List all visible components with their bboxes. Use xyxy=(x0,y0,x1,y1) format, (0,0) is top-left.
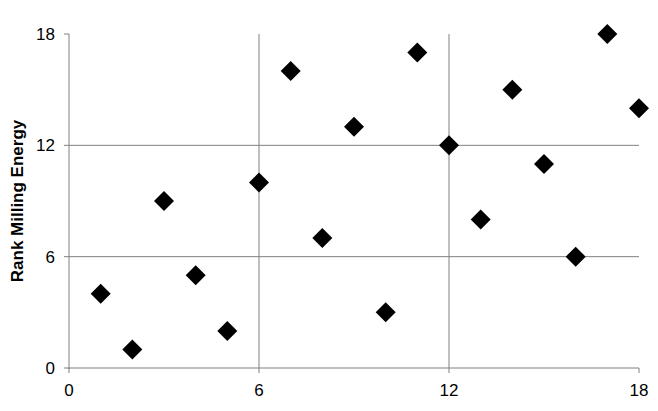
diamond-marker xyxy=(502,80,522,100)
diamond-marker xyxy=(217,321,237,341)
scatter-chart: 061218 061218 Rank Milling Energy xyxy=(0,0,658,411)
diamond-marker xyxy=(376,302,396,322)
data-points xyxy=(91,24,649,359)
diamond-marker xyxy=(344,117,364,137)
diamond-marker xyxy=(154,191,174,211)
y-tick-label: 18 xyxy=(36,25,55,44)
y-tick-label: 12 xyxy=(36,136,55,155)
x-tick-label: 18 xyxy=(630,381,649,400)
diamond-marker xyxy=(534,154,554,174)
diamond-marker xyxy=(439,135,459,155)
diamond-marker xyxy=(122,339,142,359)
y-tick-label: 6 xyxy=(46,248,55,267)
x-tick-label: 0 xyxy=(64,381,73,400)
diamond-marker xyxy=(629,98,649,118)
diamond-marker xyxy=(471,210,491,230)
x-axis-tick-labels: 061218 xyxy=(64,381,648,400)
diamond-marker xyxy=(281,61,301,81)
y-axis-tick-labels: 061218 xyxy=(36,25,55,378)
diamond-marker xyxy=(249,172,269,192)
y-axis-title: Rank Milling Energy xyxy=(8,119,27,282)
diamond-marker xyxy=(597,24,617,44)
diamond-marker xyxy=(91,284,111,304)
diamond-marker xyxy=(312,228,332,248)
diamond-marker xyxy=(566,247,586,267)
axes xyxy=(64,34,639,373)
y-tick-label: 0 xyxy=(46,359,55,378)
x-tick-label: 6 xyxy=(254,381,263,400)
diamond-marker xyxy=(407,43,427,63)
x-tick-label: 12 xyxy=(440,381,459,400)
diamond-marker xyxy=(186,265,206,285)
